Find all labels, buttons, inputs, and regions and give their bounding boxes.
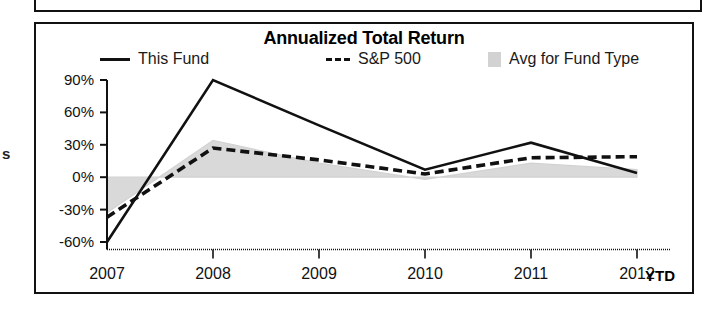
y-tick-label: -60% (36, 234, 94, 249)
x-tick-label: 2007 (72, 266, 142, 282)
y-tick-label: 0% (36, 169, 94, 184)
x-axis-ytd-label: YTD (645, 268, 675, 283)
y-tick-label: 60% (36, 104, 94, 119)
chart-canvas (36, 24, 696, 296)
plot-area (36, 24, 696, 296)
clipped-gutter-text: s (2, 146, 10, 161)
y-tick-label: -30% (36, 202, 94, 217)
chart-panel: Annualized Total Return This Fund S&P 50… (34, 22, 694, 294)
y-tick-label: 90% (36, 72, 94, 87)
adjacent-panel-fragment (34, 0, 702, 12)
x-tick-label: 2010 (390, 266, 460, 282)
x-tick-label: 2008 (178, 266, 248, 282)
x-tick-label: 2011 (496, 266, 566, 282)
x-tick-label: 2009 (284, 266, 354, 282)
chart-screenshot: s Annualized Total Return This Fund S&P … (0, 0, 705, 312)
y-tick-label: 30% (36, 137, 94, 152)
